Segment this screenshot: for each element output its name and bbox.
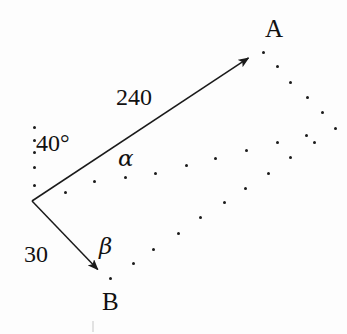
label-magnitude-30: 30 [24,242,48,266]
label-point-a: A [265,16,283,41]
speckle-dot [334,127,337,130]
speckle-dot [267,172,270,175]
vector-lines-svg [0,0,347,334]
speckle-dot [305,134,308,137]
vector-diagram-figure: A B 240 30 40° α β [0,0,347,334]
speckle-dot [177,232,180,235]
speckle-dot [152,248,155,251]
label-point-b: B [102,289,119,314]
speckle-dot [276,65,279,68]
speckle-dot [64,191,67,194]
speckle-dot [289,156,292,159]
speckle-dot [132,262,135,265]
speckle-dot [245,149,248,152]
speckle-dot [93,180,96,183]
speckle-dot [289,81,292,84]
speckle-dot [124,176,127,179]
speckle-dot [33,184,36,187]
speckle-dot [33,151,36,154]
speckle-dot [33,166,36,169]
speckle-dot [223,201,226,204]
speckle-dot [33,126,36,129]
speckle-dot [276,141,279,144]
speckle-dot [185,164,188,167]
speckle-dot [214,157,217,160]
label-angle-40-degrees: 40° [36,131,70,155]
speckle-dot [321,111,324,114]
speckle-dot [109,277,112,280]
speckle-dot [262,51,265,54]
scan-artifact [92,321,94,332]
label-angle-beta: β [99,235,112,258]
speckle-dot [306,96,309,99]
speckle-dot [199,216,202,219]
speckle-dot [33,139,36,142]
speckle-dot [244,187,247,190]
speckle-dot [154,172,157,175]
label-magnitude-240: 240 [116,85,152,109]
speckle-dot [313,141,316,144]
label-angle-alpha: α [118,147,134,170]
